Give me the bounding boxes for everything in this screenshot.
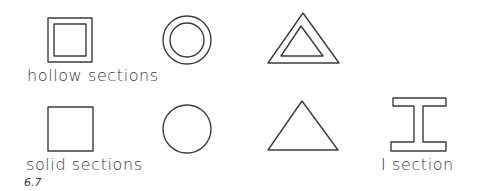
figure-number: 6.7 — [24, 176, 42, 189]
hollow-square-shape — [48, 18, 92, 62]
hollow-circle-shape — [163, 16, 211, 64]
sections-diagram: hollow sections solid sections I section… — [0, 0, 478, 191]
solid-triangle-shape — [268, 101, 338, 150]
hollow-triangle-shape — [268, 13, 339, 63]
solid-square-shape — [48, 107, 93, 151]
i-beam-shape — [391, 98, 446, 151]
hollow-sections-label: hollow sections — [27, 66, 159, 85]
solid-sections-label: solid sections — [26, 155, 143, 174]
solid-circle-shape — [163, 105, 211, 153]
i-section-label: I section — [381, 155, 454, 174]
